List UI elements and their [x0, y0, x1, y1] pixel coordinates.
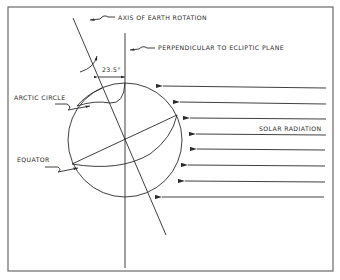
equator-label: EQUATOR	[17, 156, 50, 163]
perpendicular-label: PERPENDICULAR TO ECLIPTIC PLANE	[158, 44, 284, 51]
solar-ray-arrow	[196, 134, 326, 135]
axis-label-pointer	[90, 16, 115, 20]
arctic-circle-label: ARCTIC CIRCLE	[14, 94, 65, 101]
solar-ray-arrow	[163, 86, 326, 88]
equator-pointer	[45, 167, 78, 172]
solar-ray-arrow	[188, 165, 325, 166]
arctic-circle-curve	[77, 83, 125, 106]
axis-label: AXIS OF EARTH ROTATION	[118, 14, 207, 21]
arctic-circle-pointer	[55, 104, 90, 110]
solar-radiation-label: SOLAR RADIATION	[259, 125, 322, 132]
solar-ray-arrow	[180, 102, 326, 104]
equator-line	[72, 115, 177, 164]
angle-curl-arrow	[80, 56, 97, 72]
solar-ray-arrow	[197, 149, 325, 150]
earth-tilt-diagram: 23.5° AXIS OF EARTH ROTATION PERPENDICUL…	[0, 0, 340, 280]
solar-radiation-arrows	[162, 86, 326, 197]
solar-ray-arrow	[190, 118, 326, 119]
solar-ray-arrow	[185, 181, 325, 182]
perpendicular-label-pointer	[130, 47, 155, 50]
angle-label: 23.5°	[102, 66, 121, 73]
